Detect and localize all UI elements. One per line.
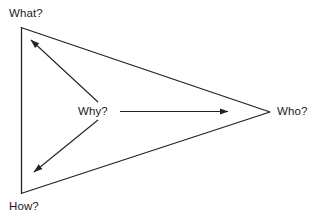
node-label-what: What? [9,7,43,20]
node-label-who: Who? [277,105,307,118]
arrow-why-to-what [31,40,98,102]
hub-arrows [31,40,228,172]
diagram-canvas: What? How? Who? Why? [0,0,318,220]
triangle-edge-what-who [21,28,270,113]
node-label-why: Why? [76,105,110,118]
triangle-outline [21,27,270,194]
diagram-svg [0,0,318,220]
arrow-why-to-how [34,120,98,172]
node-label-how: How? [9,200,39,213]
